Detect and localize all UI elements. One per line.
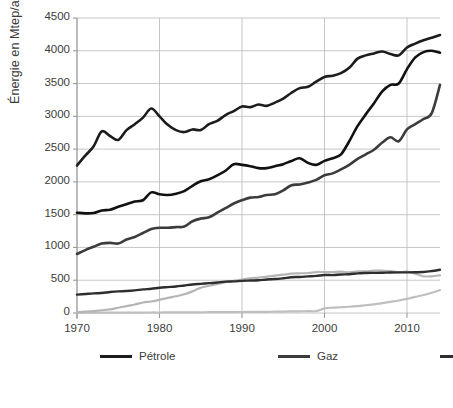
series-line-ptrole (77, 35, 440, 165)
y-tick-label: 1500 (18, 207, 70, 219)
chart-legend: Pétrole Gaz Hydroélectrique Charbon Nucl… (100, 348, 440, 364)
legend-item-gaz[interactable]: Gaz (278, 348, 440, 364)
legend-swatch-gaz (278, 355, 310, 358)
chart-figure: Énergie en Mtep/an Pétrole Gaz Hydroélec… (0, 0, 453, 408)
legend-item-petrole[interactable]: Pétrole (100, 348, 278, 364)
line-chart-plot-area (0, 0, 453, 408)
x-tick-label: 2010 (377, 322, 437, 334)
x-tick-label: 2000 (295, 322, 355, 334)
y-tick-label: 3500 (18, 76, 70, 88)
x-tick-label: 1990 (212, 322, 272, 334)
y-tick-label: 1000 (18, 239, 70, 251)
series-line-renouvelable (77, 290, 440, 313)
series-line-charbon (77, 51, 440, 214)
series-line-hydrolectrique (77, 270, 440, 295)
y-tick-label: 3000 (18, 108, 70, 120)
x-tick-label: 1980 (130, 322, 190, 334)
y-tick-label: 0 (18, 305, 70, 317)
y-tick-label: 2500 (18, 141, 70, 153)
y-tick-label: 4500 (18, 10, 70, 22)
x-tick-label: 1970 (47, 322, 107, 334)
y-tick-label: 4000 (18, 43, 70, 55)
series-line-gaz (77, 85, 440, 254)
legend-swatch-hydroelectrique (440, 355, 453, 358)
y-tick-label: 500 (18, 272, 70, 284)
legend-label-petrole: Pétrole (139, 350, 175, 362)
legend-swatch-petrole (100, 355, 132, 358)
legend-label-gaz: Gaz (317, 350, 338, 362)
y-tick-label: 2000 (18, 174, 70, 186)
legend-item-hydroelectrique[interactable]: Hydroélectrique (440, 348, 453, 364)
